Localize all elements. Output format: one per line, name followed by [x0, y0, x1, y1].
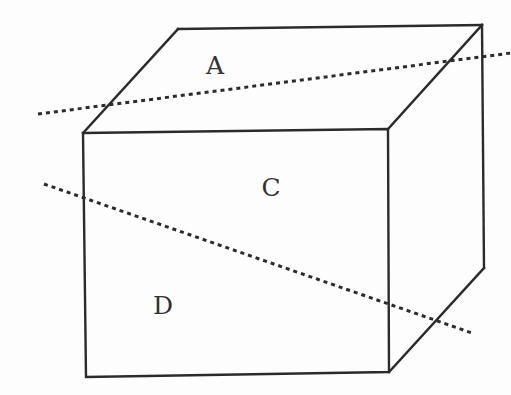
label-c: C: [261, 175, 280, 200]
front-face: [83, 129, 389, 377]
bottom-right-edge: [389, 268, 484, 372]
cutting-line-2: [44, 184, 472, 333]
diagram-canvas: A C D: [0, 0, 511, 395]
back-right-vertical-edge: [482, 25, 484, 268]
top-right-edge: [388, 25, 482, 129]
top-back-edge: [178, 25, 482, 29]
label-a: A: [206, 53, 224, 78]
top-left-edge: [83, 29, 178, 133]
cube-diagram: [0, 0, 511, 395]
label-d: D: [153, 293, 173, 318]
